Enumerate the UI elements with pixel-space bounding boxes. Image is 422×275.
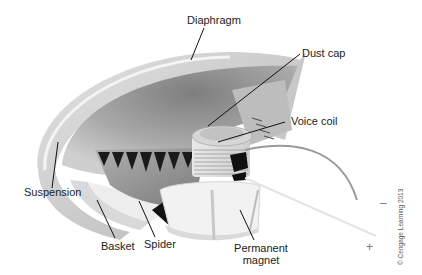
label-permanent-magnet: Permanent magnet — [226, 242, 296, 266]
label-permanent-magnet-line2: magnet — [226, 254, 296, 266]
label-suspension: Suspension — [24, 186, 82, 198]
label-dust-cap: Dust cap — [302, 47, 345, 59]
label-spider: Spider — [144, 238, 176, 250]
negative-terminal-sign: – — [380, 196, 387, 210]
label-voice-coil: Voice coil — [291, 115, 337, 127]
label-permanent-magnet-line1: Permanent — [226, 242, 296, 254]
label-basket: Basket — [101, 240, 135, 252]
wires — [245, 146, 376, 236]
permanent-magnet-part — [160, 182, 260, 241]
positive-terminal-sign: + — [366, 240, 373, 254]
speaker-diagram — [0, 0, 422, 275]
label-diaphragm: Diaphragm — [187, 14, 241, 26]
copyright-notice: © Cengage Learning 2013 — [397, 189, 404, 265]
